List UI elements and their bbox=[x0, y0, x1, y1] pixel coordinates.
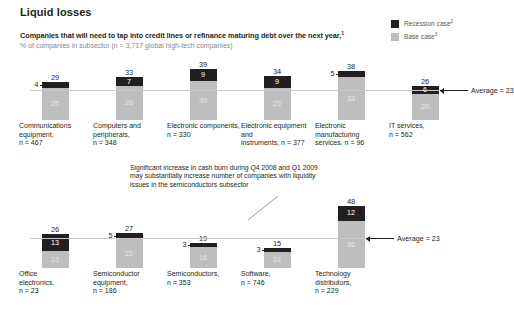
bar-segment-base: 36 bbox=[338, 221, 365, 268]
legend-swatch-icon-base bbox=[391, 33, 399, 41]
legend-label-recession: Recession case2 bbox=[404, 19, 453, 27]
bar-segment-value-recession: 4 bbox=[25, 81, 39, 89]
chart-panel-row-2: 261313275221931615312481236Average = 23 … bbox=[0, 196, 499, 306]
bar-segment-value-recession: 9 bbox=[264, 78, 291, 86]
bar-group: 29425 bbox=[18, 73, 92, 120]
bar-segment-value-base: 30 bbox=[190, 97, 217, 105]
bar-group: 33726 bbox=[92, 68, 166, 120]
bar-segment-value-recession: 3 bbox=[247, 246, 261, 254]
bar-segment-value-recession: 5 bbox=[321, 70, 335, 78]
category-label: Technologydistributors,n = 229 bbox=[315, 270, 391, 296]
category-label: Software,n = 746 bbox=[241, 270, 317, 287]
bar-segment-recession: 9 bbox=[264, 76, 291, 88]
bar-segment-base: 26 bbox=[116, 86, 143, 120]
category-label: Officeelectronics,n = 23 bbox=[19, 270, 95, 296]
stacked-bar: 930 bbox=[190, 69, 217, 120]
bar-group: 27522 bbox=[92, 224, 166, 268]
chart-panel-row-1: 294253372639930349253853326620Average = … bbox=[0, 58, 499, 153]
category-label-line: n = 467 bbox=[19, 139, 95, 148]
legend-label-base: Base case3 bbox=[404, 32, 437, 40]
stacked-bar: 726 bbox=[116, 77, 143, 120]
category-label: Semiconductorequipment,n = 186 bbox=[93, 270, 169, 296]
category-label-line: n = 746 bbox=[241, 279, 317, 288]
category-label-line: electronics, bbox=[19, 279, 95, 288]
category-label-line: n = 353 bbox=[167, 279, 243, 288]
bar-segment-value-base: 36 bbox=[338, 241, 365, 249]
bar-segment-value-base: 25 bbox=[42, 100, 69, 108]
bar-segment-value-base: 20 bbox=[412, 103, 439, 111]
bar-segment-base: 25 bbox=[42, 88, 69, 121]
bar-segment-value-base: 26 bbox=[116, 99, 143, 107]
bar-total-label: 48 bbox=[314, 197, 388, 206]
category-label: Electronic equipment andinstruments, n =… bbox=[241, 122, 317, 148]
category-label-line: n = 229 bbox=[315, 287, 391, 296]
average-label: Average = 23 bbox=[397, 234, 440, 243]
bar-segment-recession: 13 bbox=[42, 234, 69, 251]
category-label: IT services,n = 562 bbox=[389, 122, 465, 139]
legend-swatch-icon-recession bbox=[391, 20, 399, 28]
bar-segment-base: 13 bbox=[42, 251, 69, 268]
bar-segment-value-recession: 12 bbox=[338, 209, 365, 217]
bar-segment-value-recession: 13 bbox=[42, 239, 69, 247]
stacked-bar: 1313 bbox=[42, 234, 69, 268]
stacked-bar: 316 bbox=[190, 243, 217, 268]
category-label-line: instruments, n = 377 bbox=[241, 139, 317, 148]
bars-area-row-2: 261313275221931615312481236Average = 23 bbox=[18, 196, 491, 268]
bar-segment-base: 22 bbox=[116, 239, 143, 268]
bar-group: 481236 bbox=[314, 197, 388, 268]
page-title: Liquid losses bbox=[20, 6, 92, 18]
category-label-line: Semiconductor bbox=[93, 270, 169, 279]
bar-segment-base: 33 bbox=[338, 77, 365, 120]
bar-segment-value-recession: 9 bbox=[190, 71, 217, 79]
legend-label-recession-text: Recession case bbox=[404, 21, 451, 28]
bar-segment-base: 12 bbox=[264, 252, 291, 268]
category-label-line: Communications equipment, bbox=[19, 122, 95, 139]
average-line-pointer bbox=[440, 90, 468, 91]
bar-group: 15312 bbox=[240, 239, 314, 268]
category-label: Electronic components,n = 330 bbox=[167, 122, 243, 139]
bar-group: 26620 bbox=[388, 77, 462, 120]
category-label-line: Technology bbox=[315, 270, 391, 279]
legend-label-base-text: Base case bbox=[404, 34, 435, 41]
average-line bbox=[30, 90, 450, 91]
bar-total-label: 26 bbox=[18, 225, 92, 234]
bar-total-label: 39 bbox=[166, 60, 240, 69]
bar-group: 19316 bbox=[166, 234, 240, 268]
category-label: Computers and peripherals,n = 348 bbox=[93, 122, 169, 148]
bar-segment-base: 16 bbox=[190, 247, 217, 268]
bar-segment-value-base: 12 bbox=[264, 256, 291, 264]
category-label-line: n = 348 bbox=[93, 139, 169, 148]
category-label-line: Software, bbox=[241, 270, 317, 279]
category-label-line: equipment, bbox=[93, 279, 169, 288]
category-label-line: Electronic manufacturing bbox=[315, 122, 391, 139]
legend-item-base-case: Base case3 bbox=[391, 31, 491, 42]
bar-segment-recession: 7 bbox=[116, 77, 143, 86]
average-line-pointer bbox=[366, 238, 394, 239]
category-label-line: Semiconductors, bbox=[167, 270, 243, 279]
average-arrow-icon bbox=[440, 88, 444, 94]
bar-segment-value-base: 25 bbox=[264, 100, 291, 108]
footnote-marker-3: 3 bbox=[435, 32, 438, 37]
category-label: Semiconductors,n = 353 bbox=[167, 270, 243, 287]
bar-segment-base: 20 bbox=[412, 94, 439, 120]
stacked-bar: 425 bbox=[42, 82, 69, 120]
category-label-line: Electronic components, bbox=[167, 122, 243, 131]
bar-segment-value-base: 13 bbox=[42, 256, 69, 264]
chart-units-label: % of companies in subsector (n = 3,717 g… bbox=[20, 42, 233, 49]
average-arrow-icon bbox=[366, 236, 370, 242]
bar-segment-value-base: 33 bbox=[338, 95, 365, 103]
bar-group: 34925 bbox=[240, 67, 314, 120]
stacked-bar: 620 bbox=[412, 86, 439, 120]
bar-segment-base: 30 bbox=[190, 81, 217, 120]
footnote-marker-2: 2 bbox=[451, 19, 454, 24]
chart-annotation: Significant increase in cash burn during… bbox=[130, 164, 330, 189]
category-label-line: services, n = 96 bbox=[315, 139, 391, 148]
chart-subtitle: Companies that will need to tap into cre… bbox=[20, 30, 344, 40]
category-label-line: IT services, bbox=[389, 122, 465, 131]
bar-segment-value-recession: 3 bbox=[173, 241, 187, 249]
chart-subtitle-text: Companies that will need to tap into cre… bbox=[20, 31, 341, 40]
category-label-line: n = 23 bbox=[19, 287, 95, 296]
category-label: Communications equipment,n = 467 bbox=[19, 122, 95, 148]
stacked-bar: 925 bbox=[264, 76, 291, 120]
category-label-line: n = 330 bbox=[167, 131, 243, 140]
